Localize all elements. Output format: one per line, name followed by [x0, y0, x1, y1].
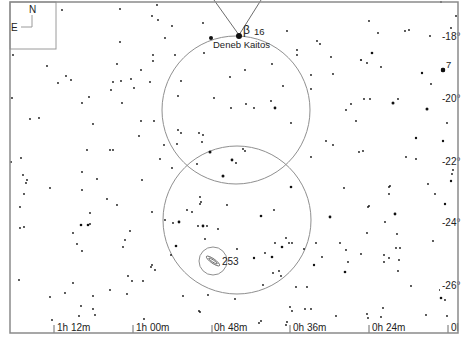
star — [332, 144, 334, 146]
star — [202, 225, 205, 228]
star — [180, 132, 182, 134]
star — [434, 193, 436, 195]
star — [253, 107, 255, 109]
star — [310, 74, 312, 76]
star — [274, 242, 276, 244]
star — [156, 4, 158, 6]
star — [176, 143, 178, 145]
star — [178, 221, 181, 224]
star — [112, 81, 114, 83]
star — [87, 224, 90, 227]
star — [94, 314, 96, 316]
star — [141, 179, 143, 181]
star — [177, 129, 179, 131]
star — [127, 275, 129, 277]
star — [310, 156, 312, 158]
star — [126, 293, 128, 295]
star — [119, 41, 121, 43]
star — [89, 212, 91, 214]
star — [274, 107, 277, 110]
star — [124, 239, 126, 241]
star — [296, 54, 298, 56]
star — [198, 310, 200, 312]
ra-label-1h12m: 1h 12m — [57, 322, 90, 333]
star — [153, 120, 155, 122]
star — [430, 83, 432, 85]
star — [204, 238, 206, 240]
star — [315, 242, 317, 244]
star — [112, 149, 114, 151]
star — [344, 271, 347, 274]
star — [89, 223, 91, 225]
star-chart: β 16 Deneb Kaitos 7 253 N E -18° -20° -2… — [0, 0, 466, 341]
star — [421, 72, 423, 74]
star — [395, 247, 397, 249]
star — [26, 179, 28, 181]
star — [360, 59, 362, 61]
star — [264, 252, 266, 254]
star — [81, 102, 83, 104]
star — [345, 249, 347, 251]
star — [369, 98, 371, 100]
star-7-dot[interactable] — [441, 68, 445, 72]
star — [319, 43, 321, 45]
star — [286, 321, 288, 323]
star — [81, 189, 83, 191]
star — [410, 285, 412, 287]
star — [152, 54, 154, 56]
star — [394, 213, 397, 216]
greek-beta-label: β — [243, 23, 250, 37]
star — [175, 245, 178, 248]
star — [244, 69, 246, 71]
star — [280, 275, 282, 277]
star — [209, 151, 212, 154]
star — [388, 257, 390, 259]
star — [440, 297, 443, 300]
star — [339, 242, 341, 244]
star — [335, 315, 337, 317]
star — [80, 305, 82, 307]
star — [384, 221, 386, 223]
star — [12, 54, 14, 56]
star — [202, 134, 204, 136]
star — [235, 162, 237, 164]
deneb-kaitos-label: Deneb Kaitos — [213, 39, 270, 50]
star — [285, 324, 287, 326]
star — [408, 29, 410, 31]
star — [281, 246, 284, 249]
star — [18, 279, 20, 281]
star — [151, 264, 153, 266]
ra-label-1h00m: 1h 00m — [136, 322, 169, 333]
star — [151, 15, 153, 17]
star — [282, 85, 284, 87]
star — [242, 148, 244, 150]
star — [196, 163, 198, 165]
star — [371, 52, 374, 55]
star — [122, 246, 124, 248]
star — [222, 175, 225, 178]
star — [244, 150, 246, 152]
star — [260, 215, 263, 218]
star — [152, 60, 154, 62]
star — [11, 97, 13, 99]
star — [217, 228, 219, 230]
star — [180, 80, 182, 82]
star — [172, 222, 174, 224]
star — [177, 95, 179, 97]
star — [88, 96, 90, 98]
star — [49, 187, 51, 189]
star — [262, 284, 264, 286]
star — [427, 183, 429, 185]
star — [432, 240, 434, 242]
star — [200, 201, 202, 203]
star — [426, 108, 429, 111]
star — [154, 269, 156, 271]
star — [358, 151, 360, 153]
star — [116, 204, 118, 206]
star — [171, 167, 173, 169]
star — [383, 254, 385, 256]
star — [363, 98, 365, 100]
star — [316, 40, 318, 42]
star — [191, 211, 193, 213]
star — [397, 98, 399, 100]
